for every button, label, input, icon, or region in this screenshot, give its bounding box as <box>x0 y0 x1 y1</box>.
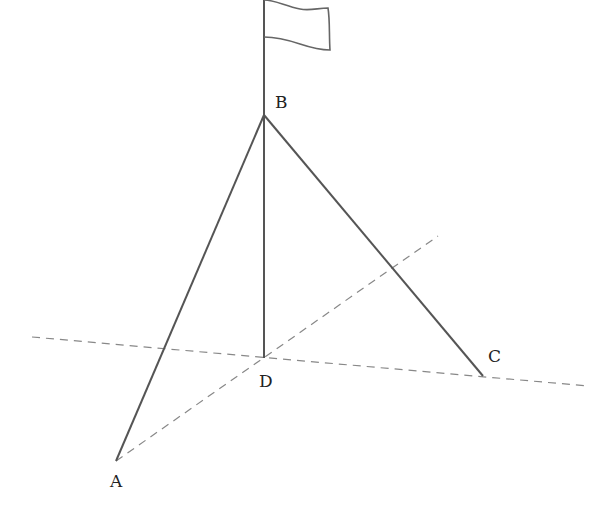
flag-icon <box>264 0 330 50</box>
ground-line-dc <box>32 337 588 386</box>
point-label-a: A <box>109 471 123 491</box>
segment-bc <box>264 115 483 376</box>
point-label-b: B <box>275 92 288 112</box>
point-label-c: C <box>488 346 501 366</box>
point-label-d: D <box>259 371 273 391</box>
geometry-diagram: A B C D <box>0 0 606 515</box>
